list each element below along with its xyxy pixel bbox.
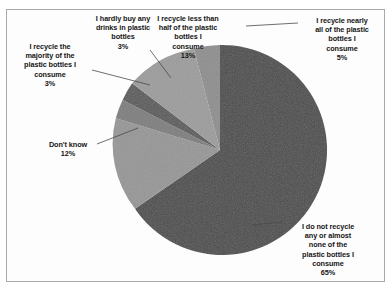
pie-label-hardly-buy: I hardly buy any drinks in plastic bottl… — [92, 14, 154, 51]
label-line: Don't know — [49, 140, 87, 149]
label-percent: 65% — [276, 268, 380, 277]
label-line: half of the plastic — [159, 23, 217, 32]
label-line: consume — [312, 259, 343, 268]
pie-label-dont-know: Don't know 12% — [32, 140, 104, 158]
label-line: I recycle the — [29, 42, 70, 51]
label-line: I recycle less than — [157, 14, 218, 23]
label-line: majority of the — [25, 51, 74, 60]
label-line: bottles — [111, 32, 134, 41]
leader-line-nearly-all — [246, 23, 298, 26]
label-line: consume — [34, 70, 65, 79]
label-percent: 12% — [32, 149, 104, 158]
label-line: drinks in plastic — [96, 23, 150, 32]
label-line: I recycle nearly — [316, 16, 367, 25]
label-percent: 5% — [300, 53, 384, 62]
label-line: consume — [326, 44, 357, 53]
label-line: bottles I — [328, 34, 355, 43]
label-line: consume — [172, 42, 203, 51]
label-line: plastic bottles I — [24, 60, 76, 69]
pie-label-do-not-recycle: I do not recycle any or almost none of t… — [276, 222, 380, 277]
label-line: any or almost — [305, 231, 351, 240]
label-percent: 3% — [8, 79, 92, 88]
label-line: plastic bottles I — [302, 250, 354, 259]
label-line: none of the — [309, 240, 347, 249]
pie-label-nearly-all: I recycle nearly all of the plastic bott… — [300, 16, 384, 62]
pie-label-majority: I recycle the majority of the plastic bo… — [8, 42, 92, 88]
label-percent: 13% — [150, 51, 226, 60]
label-line: I do not recycle — [302, 222, 354, 231]
label-line: bottles I — [174, 32, 201, 41]
label-percent: 3% — [92, 42, 154, 51]
label-line: all of the plastic — [315, 25, 369, 34]
pie-label-less-than-half: I recycle less than half of the plastic … — [150, 14, 226, 60]
label-line: I hardly buy any — [96, 14, 150, 23]
